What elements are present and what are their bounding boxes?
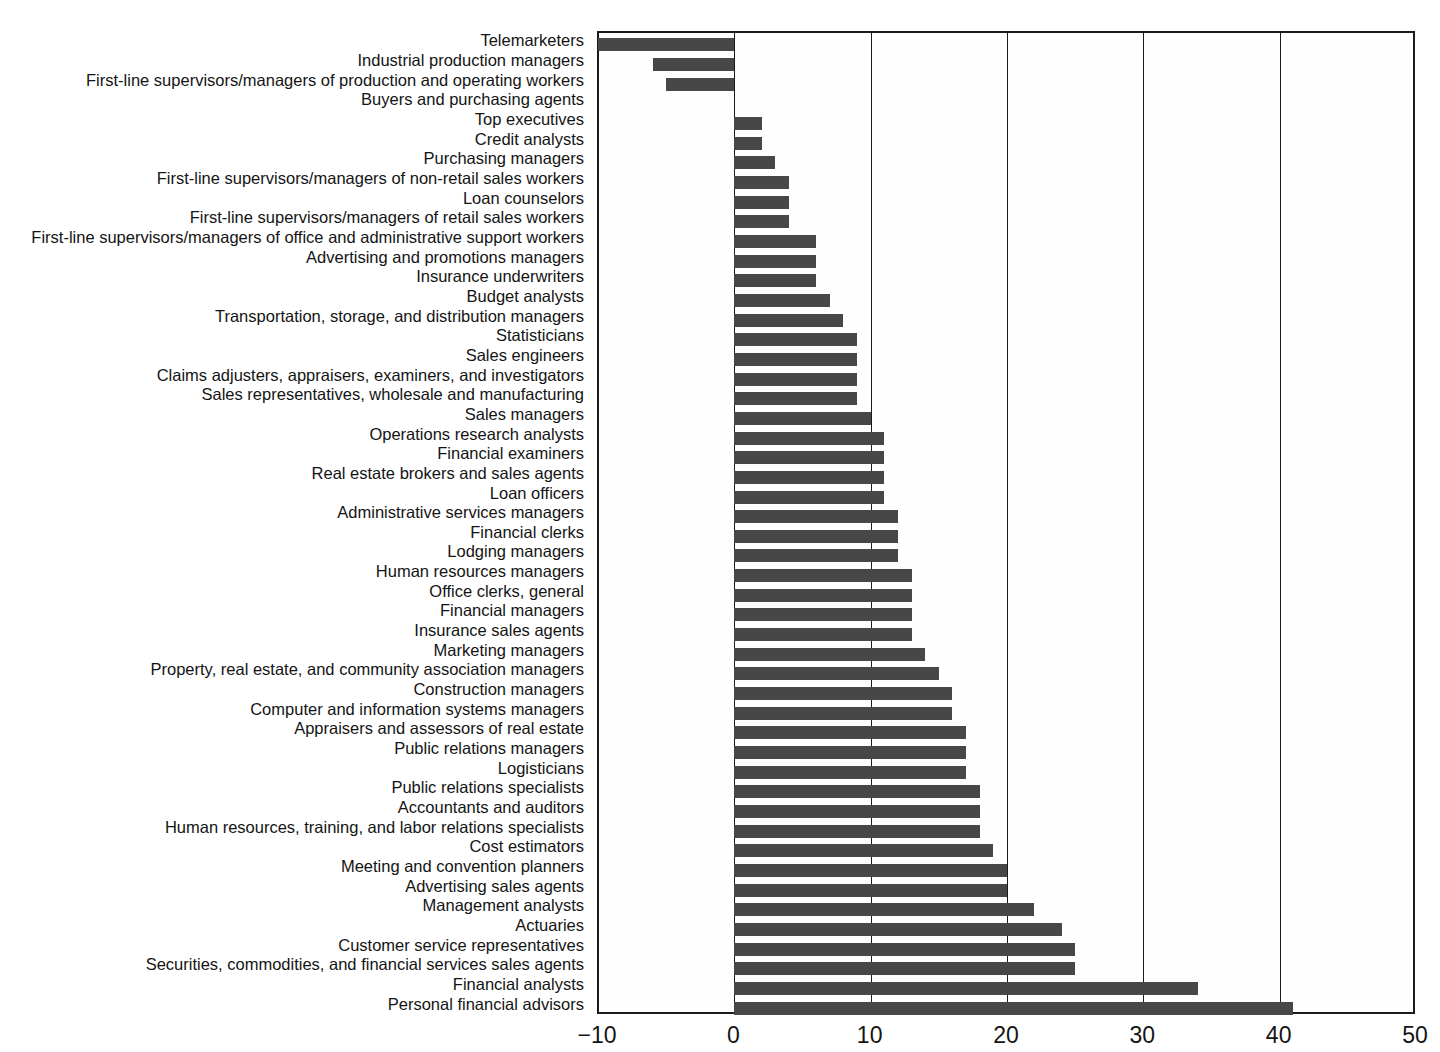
bar <box>734 785 979 798</box>
category-label: Human resources, training, and labor rel… <box>0 818 584 837</box>
bar <box>734 412 870 425</box>
category-label: Computer and information systems manager… <box>0 700 584 719</box>
category-label: Sales managers <box>0 405 584 424</box>
bar <box>734 137 761 150</box>
category-label: Advertising sales agents <box>0 877 584 896</box>
bar <box>734 432 884 445</box>
category-axis-labels: TelemarketersIndustrial production manag… <box>0 31 592 1014</box>
category-label: Logisticians <box>0 759 584 778</box>
category-label: Accountants and auditors <box>0 798 584 817</box>
category-label: First-line supervisors/managers of offic… <box>0 228 584 247</box>
category-label: Financial clerks <box>0 523 584 542</box>
bar <box>734 451 884 464</box>
bar <box>734 255 816 268</box>
x-axis: −1001020304050 <box>0 1016 1440 1052</box>
bar <box>734 923 1061 936</box>
bar <box>734 215 789 228</box>
x-tick-label: 20 <box>993 1022 1019 1048</box>
category-label: Credit analysts <box>0 130 584 149</box>
x-tick-label: −10 <box>577 1022 616 1048</box>
category-label: Cost estimators <box>0 837 584 856</box>
bar <box>734 235 816 248</box>
bar <box>734 176 789 189</box>
category-label: First-line supervisors/managers of non-r… <box>0 169 584 188</box>
bar <box>734 117 761 130</box>
category-label: Office clerks, general <box>0 582 584 601</box>
bar <box>734 196 789 209</box>
bar <box>734 549 898 562</box>
category-label: Financial examiners <box>0 444 584 463</box>
category-label: Real estate brokers and sales agents <box>0 464 584 483</box>
category-label: Budget analysts <box>0 287 584 306</box>
bar <box>734 1002 1293 1015</box>
x-tick-label: 40 <box>1266 1022 1292 1048</box>
bar <box>734 943 1075 956</box>
category-label: Transportation, storage, and distributio… <box>0 307 584 326</box>
bar <box>734 982 1198 995</box>
category-label: Administrative services managers <box>0 503 584 522</box>
bar <box>734 687 952 700</box>
category-label: Operations research analysts <box>0 425 584 444</box>
x-tick-label: 50 <box>1402 1022 1428 1048</box>
bar <box>734 628 911 641</box>
bar <box>734 746 966 759</box>
category-label: Public relations specialists <box>0 778 584 797</box>
category-label: Management analysts <box>0 896 584 915</box>
category-label: Telemarketers <box>0 31 584 50</box>
category-label: Financial analysts <box>0 975 584 994</box>
category-label: Sales engineers <box>0 346 584 365</box>
category-label: Industrial production managers <box>0 51 584 70</box>
category-label: Buyers and purchasing agents <box>0 90 584 109</box>
category-label: First-line supervisors/managers of produ… <box>0 71 584 90</box>
bar <box>734 589 911 602</box>
category-label: Personal financial advisors <box>0 995 584 1014</box>
bar <box>734 569 911 582</box>
category-label: Lodging managers <box>0 542 584 561</box>
bar <box>734 844 993 857</box>
bar <box>734 903 1034 916</box>
category-label: Insurance sales agents <box>0 621 584 640</box>
bar <box>734 373 857 386</box>
bar <box>734 825 979 838</box>
category-label: Sales representatives, wholesale and man… <box>0 385 584 404</box>
bar <box>734 333 857 346</box>
category-label: Loan officers <box>0 484 584 503</box>
bar <box>666 78 734 91</box>
bar <box>734 353 857 366</box>
x-tick-label: 0 <box>727 1022 740 1048</box>
category-label: Marketing managers <box>0 641 584 660</box>
bar-chart: TelemarketersIndustrial production manag… <box>0 0 1440 1052</box>
x-tick-label: 10 <box>857 1022 883 1048</box>
x-tick-label: 30 <box>1130 1022 1156 1048</box>
bar <box>734 274 816 287</box>
category-label: Securities, commodities, and financial s… <box>0 955 584 974</box>
bar <box>653 58 735 71</box>
bar <box>734 392 857 405</box>
category-label: Loan counselors <box>0 189 584 208</box>
bar <box>598 38 734 51</box>
bar <box>734 805 979 818</box>
plot-area <box>597 31 1415 1014</box>
category-label: Construction managers <box>0 680 584 699</box>
category-label: Customer service representatives <box>0 936 584 955</box>
category-label: Claims adjusters, appraisers, examiners,… <box>0 366 584 385</box>
bar <box>734 667 939 680</box>
bar <box>734 156 775 169</box>
bar <box>734 510 898 523</box>
category-label: First-line supervisors/managers of retai… <box>0 208 584 227</box>
category-label: Property, real estate, and community ass… <box>0 660 584 679</box>
category-label: Human resources managers <box>0 562 584 581</box>
bar <box>734 294 829 307</box>
category-label: Statisticians <box>0 326 584 345</box>
category-label: Purchasing managers <box>0 149 584 168</box>
bar <box>734 314 843 327</box>
category-label: Actuaries <box>0 916 584 935</box>
bars <box>599 33 1413 1012</box>
bar <box>734 726 966 739</box>
bar <box>734 766 966 779</box>
category-label: Insurance underwriters <box>0 267 584 286</box>
category-label: Public relations managers <box>0 739 584 758</box>
bar <box>734 864 1007 877</box>
bar <box>734 471 884 484</box>
category-label: Advertising and promotions managers <box>0 248 584 267</box>
